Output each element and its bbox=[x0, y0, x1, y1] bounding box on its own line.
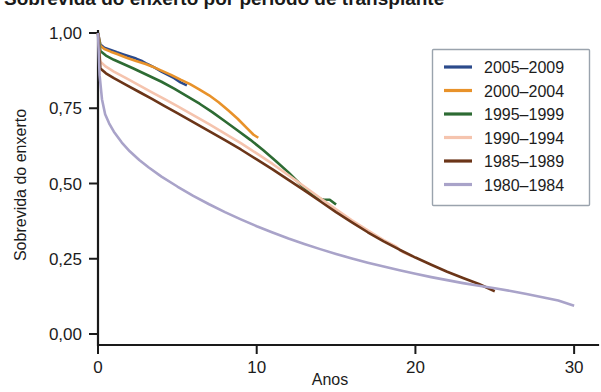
x-tick-label: 30 bbox=[565, 358, 584, 377]
y-tick-label: 0,50 bbox=[49, 175, 82, 194]
series-line-2000-2004 bbox=[98, 33, 258, 138]
y-axis-title: Sobrevida do enxerto bbox=[12, 109, 29, 261]
legend-label: 2000–2004 bbox=[484, 83, 564, 100]
y-axis-tick-marks bbox=[89, 33, 98, 334]
survival-chart: 0,000,250,500,751,00 0102030 Sobrevida d… bbox=[0, 0, 601, 392]
legend-label: 1995–1999 bbox=[484, 106, 564, 123]
legend-label: 2005–2009 bbox=[484, 59, 564, 76]
x-axis-tick-marks bbox=[98, 345, 574, 354]
y-axis-tick-labels: 0,000,250,500,751,00 bbox=[49, 24, 82, 344]
legend-label: 1990–1994 bbox=[484, 130, 564, 147]
chart-screenshot: Sobrevida do enxerto por período de tran… bbox=[0, 0, 601, 392]
y-tick-label: 0,25 bbox=[49, 250, 82, 269]
x-tick-label: 20 bbox=[406, 358, 425, 377]
y-tick-label: 0,75 bbox=[49, 99, 82, 118]
y-tick-label: 1,00 bbox=[49, 24, 82, 43]
legend-label: 1980–1984 bbox=[484, 177, 564, 194]
y-tick-label: 0,00 bbox=[49, 325, 82, 344]
x-axis-title: Anos bbox=[312, 371, 348, 388]
x-tick-label: 10 bbox=[247, 358, 266, 377]
x-tick-label: 0 bbox=[93, 358, 102, 377]
legend-label: 1985–1989 bbox=[484, 153, 564, 170]
legend[interactable]: 2005–20092000–20041995–19991990–19941985… bbox=[433, 50, 590, 206]
